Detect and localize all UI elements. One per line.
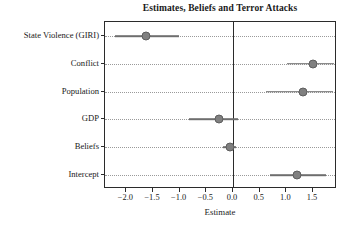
y-axis-tick-label: Conflict [71,58,104,68]
x-axis-tick [285,188,286,192]
estimate-point[interactable] [309,59,318,68]
x-axis-tick [179,188,180,192]
y-axis-tick [101,146,105,147]
y-axis-tick [101,91,105,92]
x-axis-tick [152,188,153,192]
y-axis-tick-label: Population [62,86,104,96]
plot-area [104,21,336,188]
y-axis-tick-label: Intercept [68,169,104,179]
x-axis-title: Estimate [104,207,336,217]
estimate-point[interactable] [299,87,308,96]
y-axis-tick [101,35,105,36]
coefficient-plot-figure: Estimates, Beliefs and Terror Attacks St… [0,0,355,230]
estimate-point[interactable] [214,115,223,124]
y-axis-labels: State Violence (GIRI)ConflictPopulationG… [0,21,104,188]
gridline-row [105,147,335,148]
x-axis-tick [259,188,260,192]
zero-reference-line [233,22,234,187]
chart-title: Estimates, Beliefs and Terror Attacks [104,3,336,13]
y-axis-tick [101,118,105,119]
y-axis-tick [101,63,105,64]
x-axis-tick [205,188,206,192]
estimate-point[interactable] [293,171,302,180]
x-axis-tick [312,188,313,192]
x-axis-tick [125,188,126,192]
y-axis-tick-label: State Violence (GIRI) [24,30,104,40]
x-axis-tick-label: 1.5 [295,193,329,202]
estimate-point[interactable] [225,143,234,152]
x-axis-tick [232,188,233,192]
estimate-point[interactable] [142,31,151,40]
y-axis-tick [101,174,105,175]
